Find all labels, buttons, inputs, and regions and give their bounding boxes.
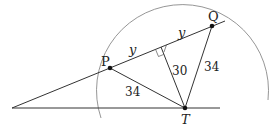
label-y-right: y bbox=[177, 25, 186, 40]
geometry-diagram: P Q T y y 34 30 34 bbox=[0, 0, 275, 127]
label-p: P bbox=[101, 54, 110, 69]
label-y-left: y bbox=[128, 42, 137, 57]
label-t: T bbox=[181, 112, 191, 127]
label-pt-length: 34 bbox=[125, 85, 141, 99]
secant-line-pq bbox=[12, 21, 225, 108]
label-qt-length: 34 bbox=[204, 60, 220, 74]
point-t bbox=[183, 106, 188, 111]
label-height: 30 bbox=[172, 64, 187, 78]
point-q bbox=[210, 24, 215, 29]
label-q: Q bbox=[208, 9, 219, 24]
diagram-canvas: P Q T y y 34 30 34 bbox=[0, 0, 275, 127]
